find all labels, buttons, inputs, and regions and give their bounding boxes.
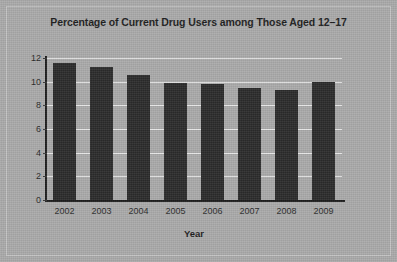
x-tick-label: 2003 (91, 206, 111, 216)
bar (127, 75, 150, 200)
bar-column: 2006 (194, 58, 231, 200)
bar (164, 83, 187, 200)
bar (275, 90, 298, 200)
bar (238, 88, 261, 200)
bar-column: 2005 (157, 58, 194, 200)
bar-column: 2009 (305, 58, 342, 200)
x-tick-label: 2004 (128, 206, 148, 216)
bar-column: 2002 (46, 58, 83, 200)
y-tick-label: 0 (36, 195, 41, 205)
bar (312, 82, 335, 200)
y-tick-label: 10 (31, 77, 41, 87)
chart-screenshot: Percentage of Current Drug Users among T… (0, 0, 397, 262)
bar (201, 84, 224, 200)
bar-column: 2003 (83, 58, 120, 200)
bar-column: 2007 (231, 58, 268, 200)
y-tick-label: 4 (36, 148, 41, 158)
bar-column: 2004 (120, 58, 157, 200)
x-tick-label: 2006 (202, 206, 222, 216)
y-tick-mark (43, 200, 47, 201)
x-tick-label: 2002 (54, 206, 74, 216)
y-tick-label: 8 (36, 100, 41, 110)
y-tick-label: 2 (36, 171, 41, 181)
y-tick-label: 12 (31, 53, 41, 63)
x-tick-label: 2009 (313, 206, 333, 216)
plot-area: 024681012 200220032004200520062007200820… (46, 58, 342, 200)
bar-column: 2008 (268, 58, 305, 200)
bar (90, 67, 113, 200)
chart-title: Percentage of Current Drug Users among T… (0, 16, 397, 28)
x-axis-title: Year (46, 228, 342, 239)
x-tick-label: 2008 (276, 206, 296, 216)
y-tick-label: 6 (36, 124, 41, 134)
x-tick-label: 2005 (165, 206, 185, 216)
gridline: 0 (46, 200, 342, 201)
x-tick-label: 2007 (239, 206, 259, 216)
bar-series: 20022003200420052006200720082009 (46, 58, 342, 200)
bar (53, 63, 76, 200)
